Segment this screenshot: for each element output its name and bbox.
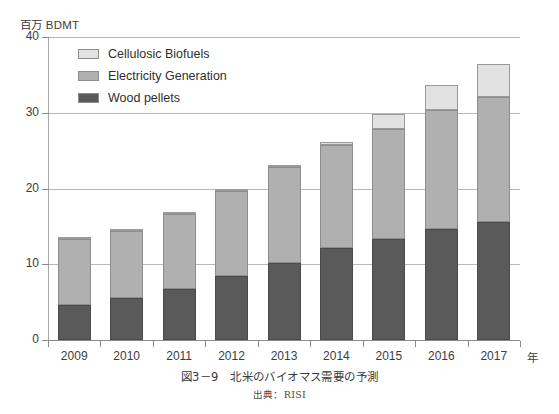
x-tick-mark-2016 bbox=[415, 341, 416, 347]
bar-segment-biofuels-2011[interactable] bbox=[163, 212, 196, 214]
caption-source: 出典：RISI bbox=[0, 387, 559, 401]
bar-segment-electricity-2010[interactable] bbox=[110, 231, 143, 298]
bar-segment-electricity-2013[interactable] bbox=[268, 167, 301, 262]
x-axis-unit-label: 年 bbox=[527, 349, 538, 365]
x-tick-label-2015: 2015 bbox=[359, 349, 419, 363]
bar-segment-electricity-2017[interactable] bbox=[477, 97, 510, 222]
bar-group-2014[interactable] bbox=[320, 37, 353, 340]
bar-segment-electricity-2016[interactable] bbox=[425, 110, 458, 229]
bar-segment-pellets-2012[interactable] bbox=[215, 276, 248, 340]
legend-label-2: Wood pellets bbox=[108, 91, 180, 105]
legend-label-1: Electricity Generation bbox=[108, 69, 227, 83]
y-tick-mark-30 bbox=[42, 113, 49, 114]
bar-group-2015[interactable] bbox=[372, 37, 405, 340]
bar-segment-biofuels-2017[interactable] bbox=[477, 64, 510, 97]
bar-segment-electricity-2011[interactable] bbox=[163, 214, 196, 289]
bar-segment-pellets-2015[interactable] bbox=[372, 239, 405, 341]
legend-item-0[interactable]: Cellulosic Biofuels bbox=[78, 44, 227, 64]
y-tick-mark-10 bbox=[42, 264, 49, 265]
bar-segment-biofuels-2009[interactable] bbox=[58, 237, 91, 239]
bar-group-2013[interactable] bbox=[268, 37, 301, 340]
x-tick-mark-2009 bbox=[48, 341, 49, 347]
x-tick-label-2016: 2016 bbox=[411, 349, 471, 363]
bar-segment-pellets-2010[interactable] bbox=[110, 298, 143, 340]
y-axis-tick-labels: 010203040 bbox=[0, 0, 39, 414]
y-tick-label-20: 20 bbox=[3, 181, 39, 195]
x-tick-label-2011: 2011 bbox=[149, 349, 209, 363]
bar-segment-pellets-2009[interactable] bbox=[58, 305, 91, 340]
bar-group-2017[interactable] bbox=[477, 37, 510, 340]
x-tick-mark-2017 bbox=[468, 341, 469, 347]
x-tick-mark-2015 bbox=[363, 341, 364, 347]
y-tick-label-30: 30 bbox=[3, 105, 39, 119]
x-tick-label-2010: 2010 bbox=[97, 349, 157, 363]
caption-title: 図3－9 北米のバイオマス需要の予測 bbox=[0, 368, 559, 384]
x-tick-mark-end bbox=[520, 341, 521, 347]
bar-segment-electricity-2012[interactable] bbox=[215, 191, 248, 276]
x-tick-label-2013: 2013 bbox=[254, 349, 314, 363]
figure-caption: 図3－9 北米のバイオマス需要の予測 出典：RISI bbox=[0, 368, 559, 401]
x-tick-mark-2013 bbox=[258, 341, 259, 347]
chart-legend: Cellulosic BiofuelsElectricity Generatio… bbox=[78, 44, 227, 110]
bar-segment-biofuels-2010[interactable] bbox=[110, 229, 143, 231]
legend-label-0: Cellulosic Biofuels bbox=[108, 47, 209, 61]
legend-swatch-icon-2 bbox=[78, 93, 99, 103]
x-tick-label-2014: 2014 bbox=[306, 349, 366, 363]
bar-segment-pellets-2014[interactable] bbox=[320, 248, 353, 340]
bar-segment-biofuels-2016[interactable] bbox=[425, 85, 458, 111]
legend-swatch-icon-1 bbox=[78, 71, 99, 81]
x-tick-mark-2010 bbox=[100, 341, 101, 347]
y-tick-label-10: 10 bbox=[3, 256, 39, 270]
y-tick-mark-20 bbox=[42, 189, 49, 190]
bar-segment-pellets-2017[interactable] bbox=[477, 222, 510, 340]
x-tick-mark-2012 bbox=[205, 341, 206, 347]
bar-segment-pellets-2016[interactable] bbox=[425, 229, 458, 340]
bar-segment-biofuels-2012[interactable] bbox=[215, 189, 248, 191]
bar-segment-biofuels-2014[interactable] bbox=[320, 142, 353, 145]
x-tick-label-2017: 2017 bbox=[464, 349, 524, 363]
legend-swatch-icon-0 bbox=[78, 49, 99, 59]
legend-item-1[interactable]: Electricity Generation bbox=[78, 66, 227, 86]
x-tick-mark-2014 bbox=[310, 341, 311, 347]
bar-segment-electricity-2009[interactable] bbox=[58, 239, 91, 306]
y-tick-label-40: 40 bbox=[3, 29, 39, 43]
x-tick-label-2012: 2012 bbox=[202, 349, 262, 363]
x-tick-mark-2011 bbox=[153, 341, 154, 347]
bar-segment-biofuels-2015[interactable] bbox=[372, 114, 405, 129]
legend-item-2[interactable]: Wood pellets bbox=[78, 88, 227, 108]
bar-segment-biofuels-2013[interactable] bbox=[268, 165, 301, 167]
bar-segment-pellets-2011[interactable] bbox=[163, 289, 196, 341]
bar-segment-electricity-2015[interactable] bbox=[372, 129, 405, 238]
gridline-0 bbox=[48, 340, 520, 341]
bar-group-2016[interactable] bbox=[425, 37, 458, 340]
bar-segment-electricity-2014[interactable] bbox=[320, 145, 353, 248]
x-tick-label-2009: 2009 bbox=[44, 349, 104, 363]
y-tick-label-0: 0 bbox=[3, 332, 39, 346]
figure-biomass-demand-forecast: 百万 BDMT 010203040 年 Cellulosic BiofuelsE… bbox=[0, 0, 559, 414]
y-tick-mark-40 bbox=[42, 37, 49, 38]
bar-segment-pellets-2013[interactable] bbox=[268, 263, 301, 340]
